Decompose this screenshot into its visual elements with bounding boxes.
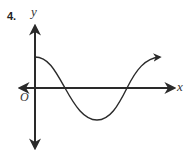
graph [0, 0, 193, 159]
